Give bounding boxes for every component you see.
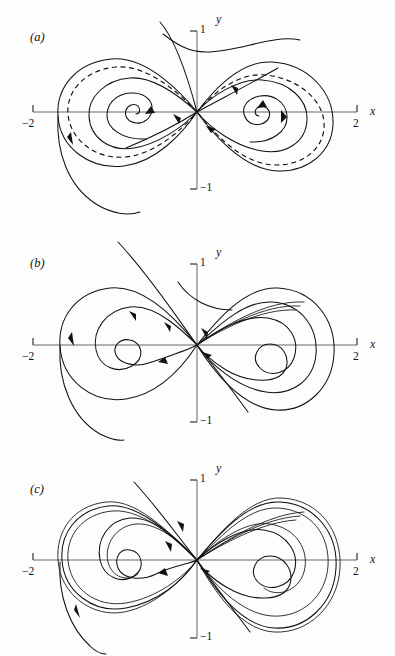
arrowhead-sep-upper-left-b bbox=[164, 322, 171, 332]
y-axis-b-title: y bbox=[216, 245, 221, 260]
x-axis-c-title: x bbox=[370, 552, 375, 567]
separatrix-in-upper-left-b bbox=[118, 242, 197, 345]
x-axis-a-title: x bbox=[370, 104, 375, 119]
trajectory-outer-left-b bbox=[60, 288, 197, 400]
y-axis-b-max-label: 1 bbox=[200, 256, 206, 268]
trajectory-bundle-2-c bbox=[197, 512, 304, 560]
panel-b: (b) bbox=[0, 222, 395, 440]
arrowhead-left-inner-a bbox=[145, 106, 155, 114]
y-axis-a-min-label: −1 bbox=[200, 181, 212, 193]
trajectory-bundle-3-b bbox=[197, 302, 304, 345]
arrowhead-left-lobe-b bbox=[68, 332, 74, 346]
panel-a: (a) bbox=[0, 0, 395, 222]
trajectory-bundle-3-c bbox=[197, 520, 296, 560]
panel-c: (c) bbox=[0, 440, 395, 656]
y-axis-b-min-label: −1 bbox=[200, 414, 212, 426]
y-axis-a-max-label: 1 bbox=[200, 23, 206, 35]
separatrix-out-lower-right-b bbox=[197, 345, 248, 412]
trajectory-inner-left-2-c bbox=[107, 524, 197, 578]
x-axis-c-min-label: −2 bbox=[22, 565, 34, 577]
trajectory-outer-left-1-c bbox=[62, 506, 197, 609]
arrowhead-left-top-b bbox=[129, 311, 136, 321]
trajectory-top-arc-a bbox=[163, 34, 300, 52]
trajectory-inner-right-c bbox=[197, 529, 296, 598]
trajectory-bundle-1-c bbox=[197, 516, 300, 560]
trajectory-second-right-b bbox=[197, 302, 316, 393]
arrowhead-sep-mid-c bbox=[165, 541, 172, 552]
x-axis-b-title: x bbox=[370, 337, 375, 352]
arrowhead-sep-mid-b bbox=[201, 328, 208, 339]
arrowhead-right-lobe-a bbox=[257, 100, 267, 108]
trajectory-transient-b bbox=[60, 346, 124, 440]
trajectory-inner-right-1-a bbox=[197, 80, 307, 152]
x-axis-b-min-label: −2 bbox=[22, 350, 34, 362]
arrowhead-sep-lower-right-a bbox=[206, 126, 216, 133]
panel-c-plot bbox=[0, 440, 395, 656]
figure-phase-portraits: (a) bbox=[0, 0, 395, 656]
trajectory-outer-right-a bbox=[197, 62, 333, 171]
x-axis-a-max-label: 2 bbox=[353, 117, 359, 129]
panel-b-plot bbox=[0, 222, 395, 440]
trajectory-spiral-left-a bbox=[107, 93, 152, 139]
arrowhead-sep-upper-c bbox=[177, 521, 184, 532]
panel-a-plot bbox=[0, 0, 395, 222]
trajectory-inner-S-left-b bbox=[95, 307, 197, 370]
y-axis-c-min-label: −1 bbox=[200, 630, 212, 642]
trajectory-top-arc-b bbox=[178, 282, 232, 310]
x-axis-b-max-label: 2 bbox=[353, 350, 359, 362]
trajectory-transient-c bbox=[60, 562, 106, 654]
trajectory-outer-left-a bbox=[58, 59, 197, 167]
trajectory-spiral-right-a bbox=[244, 96, 287, 142]
trajectory-outer-right-2-c bbox=[197, 498, 340, 632]
x-axis-a-min-label: −2 bbox=[22, 117, 34, 129]
y-axis-c-title: y bbox=[216, 461, 221, 476]
arrowhead-transient-c bbox=[74, 604, 80, 618]
trajectory-inner-left-1-a bbox=[89, 78, 197, 149]
y-axis-a-title: y bbox=[216, 12, 221, 27]
y-axis-c-max-label: 1 bbox=[200, 472, 206, 484]
x-axis-c-max-label: 2 bbox=[353, 565, 359, 577]
separatrix-in-upper-left-c bbox=[134, 482, 197, 560]
trajectory-outer-right-3-c bbox=[197, 508, 328, 616]
separatrix-out-lower-left-a bbox=[126, 112, 197, 148]
